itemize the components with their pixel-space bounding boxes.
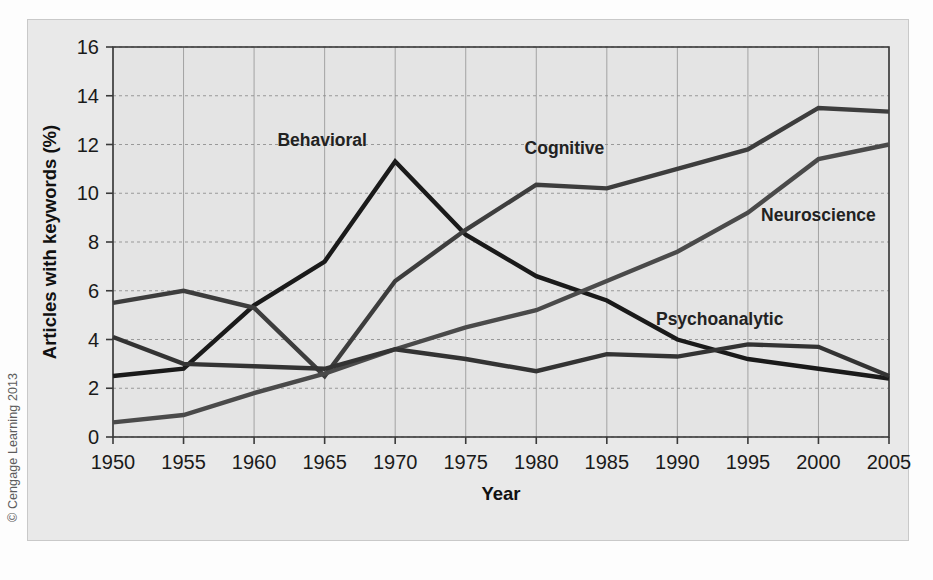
x-tick-label: 1995 xyxy=(726,451,771,473)
x-tick-label: 1985 xyxy=(585,451,630,473)
x-axis-title: Year xyxy=(481,483,520,504)
y-tick-label: 14 xyxy=(77,85,99,107)
y-tick-label: 16 xyxy=(77,36,99,58)
x-tick-label: 1950 xyxy=(91,451,136,473)
x-tick-label: 2000 xyxy=(796,451,841,473)
line-chart: BehavioralCognitiveNeurosciencePsychoana… xyxy=(0,0,933,580)
x-tick-label: 1960 xyxy=(232,451,277,473)
x-tick-label: 1990 xyxy=(655,451,700,473)
series-label-cognitive: Cognitive xyxy=(525,138,605,158)
grid-layer xyxy=(113,47,889,437)
x-tick-label: 1955 xyxy=(161,451,206,473)
x-tick-label: 1980 xyxy=(514,451,559,473)
y-tick-label: 10 xyxy=(77,182,99,204)
y-tick-label: 8 xyxy=(88,231,99,253)
series-label-psychoanalytic: Psychoanalytic xyxy=(656,309,784,329)
x-tick-label: 2005 xyxy=(867,451,912,473)
figure-container: © Cengage Learning 2013 BehavioralCognit… xyxy=(0,0,933,580)
y-tick-label: 12 xyxy=(77,134,99,156)
y-tick-label: 0 xyxy=(88,426,99,448)
y-tick-label: 2 xyxy=(88,377,99,399)
y-tick-label: 4 xyxy=(88,329,99,351)
series-label-behavioral: Behavioral xyxy=(277,130,366,150)
x-tick-label: 1975 xyxy=(443,451,488,473)
x-tick-label: 1970 xyxy=(373,451,418,473)
y-tick-label: 6 xyxy=(88,280,99,302)
x-tick-label: 1965 xyxy=(302,451,347,473)
series-label-neuroscience: Neuroscience xyxy=(761,205,876,225)
y-axis-title: Articles with keywords (%) xyxy=(39,125,60,359)
